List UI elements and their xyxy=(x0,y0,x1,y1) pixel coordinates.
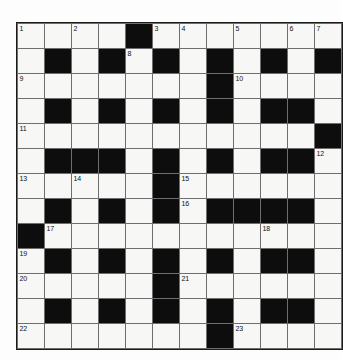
crossword-cell[interactable] xyxy=(288,124,314,148)
crossword-cell[interactable] xyxy=(126,99,152,123)
crossword-cell[interactable] xyxy=(234,224,260,248)
crossword-cell[interactable] xyxy=(72,274,98,298)
crossword-cell[interactable] xyxy=(72,74,98,98)
crossword-cell[interactable] xyxy=(126,249,152,273)
crossword-cell[interactable] xyxy=(288,74,314,98)
crossword-cell[interactable] xyxy=(288,224,314,248)
crossword-cell[interactable]: 8 xyxy=(126,49,152,73)
crossword-cell[interactable] xyxy=(18,99,44,123)
crossword-cell[interactable] xyxy=(18,49,44,73)
crossword-cell[interactable] xyxy=(180,124,206,148)
crossword-cell[interactable] xyxy=(234,249,260,273)
crossword-cell[interactable]: 5 xyxy=(234,24,260,48)
crossword-cell[interactable]: 2 xyxy=(72,24,98,48)
crossword-cell[interactable] xyxy=(126,124,152,148)
crossword-cell[interactable] xyxy=(72,224,98,248)
crossword-cell[interactable]: 15 xyxy=(180,174,206,198)
crossword-cell[interactable] xyxy=(45,124,71,148)
crossword-cell[interactable] xyxy=(261,174,287,198)
crossword-cell[interactable] xyxy=(153,324,179,348)
crossword-cell[interactable]: 9 xyxy=(18,74,44,98)
crossword-cell[interactable] xyxy=(18,149,44,173)
crossword-cell[interactable] xyxy=(126,299,152,323)
crossword-cell[interactable] xyxy=(234,99,260,123)
crossword-cell[interactable]: 18 xyxy=(261,224,287,248)
crossword-cell[interactable] xyxy=(180,149,206,173)
crossword-cell[interactable] xyxy=(126,174,152,198)
crossword-cell[interactable]: 4 xyxy=(180,24,206,48)
crossword-cell[interactable] xyxy=(45,274,71,298)
crossword-cell[interactable] xyxy=(99,274,125,298)
crossword-cell[interactable]: 19 xyxy=(18,249,44,273)
crossword-cell[interactable]: 14 xyxy=(72,174,98,198)
crossword-cell[interactable] xyxy=(126,274,152,298)
crossword-cell[interactable] xyxy=(207,274,233,298)
crossword-cell[interactable]: 23 xyxy=(234,324,260,348)
crossword-cell[interactable]: 16 xyxy=(180,199,206,223)
crossword-cell[interactable]: 12 xyxy=(315,149,341,173)
crossword-cell[interactable] xyxy=(126,149,152,173)
crossword-cell[interactable] xyxy=(234,299,260,323)
crossword-cell[interactable] xyxy=(126,199,152,223)
crossword-cell[interactable] xyxy=(207,124,233,148)
crossword-cell[interactable] xyxy=(99,74,125,98)
crossword-cell[interactable] xyxy=(72,49,98,73)
crossword-cell[interactable] xyxy=(72,199,98,223)
crossword-cell[interactable]: 1 xyxy=(18,24,44,48)
crossword-cell[interactable] xyxy=(315,274,341,298)
crossword-cell[interactable] xyxy=(72,249,98,273)
crossword-cell[interactable] xyxy=(315,224,341,248)
crossword-cell[interactable] xyxy=(72,299,98,323)
crossword-cell[interactable] xyxy=(288,174,314,198)
crossword-cell[interactable] xyxy=(180,49,206,73)
crossword-cell[interactable] xyxy=(207,24,233,48)
crossword-cell[interactable] xyxy=(153,124,179,148)
crossword-cell[interactable]: 10 xyxy=(234,74,260,98)
crossword-cell[interactable] xyxy=(315,324,341,348)
crossword-cell[interactable] xyxy=(180,324,206,348)
crossword-cell[interactable] xyxy=(315,249,341,273)
crossword-cell[interactable] xyxy=(288,274,314,298)
crossword-cell[interactable]: 3 xyxy=(153,24,179,48)
crossword-cell[interactable] xyxy=(261,24,287,48)
crossword-cell[interactable] xyxy=(180,299,206,323)
crossword-grid[interactable]: 1234567891011121314151617181920212223 xyxy=(16,22,343,350)
crossword-cell[interactable] xyxy=(180,74,206,98)
crossword-cell[interactable] xyxy=(99,324,125,348)
crossword-cell[interactable] xyxy=(180,99,206,123)
crossword-cell[interactable] xyxy=(234,124,260,148)
crossword-cell[interactable] xyxy=(315,174,341,198)
crossword-cell[interactable] xyxy=(45,324,71,348)
crossword-cell[interactable] xyxy=(234,274,260,298)
crossword-cell[interactable] xyxy=(45,174,71,198)
crossword-cell[interactable] xyxy=(315,99,341,123)
crossword-cell[interactable] xyxy=(315,199,341,223)
crossword-cell[interactable] xyxy=(99,174,125,198)
crossword-cell[interactable] xyxy=(153,224,179,248)
crossword-cell[interactable] xyxy=(99,24,125,48)
crossword-cell[interactable] xyxy=(18,299,44,323)
crossword-cell[interactable] xyxy=(180,224,206,248)
crossword-cell[interactable]: 20 xyxy=(18,274,44,298)
crossword-cell[interactable] xyxy=(126,324,152,348)
crossword-cell[interactable]: 17 xyxy=(45,224,71,248)
crossword-cell[interactable] xyxy=(261,274,287,298)
crossword-cell[interactable] xyxy=(18,199,44,223)
crossword-cell[interactable] xyxy=(72,324,98,348)
crossword-cell[interactable] xyxy=(99,224,125,248)
crossword-cell[interactable] xyxy=(72,124,98,148)
crossword-cell[interactable] xyxy=(288,324,314,348)
crossword-cell[interactable] xyxy=(99,124,125,148)
crossword-cell[interactable] xyxy=(45,74,71,98)
crossword-cell[interactable] xyxy=(180,249,206,273)
crossword-cell[interactable]: 7 xyxy=(315,24,341,48)
crossword-cell[interactable] xyxy=(261,74,287,98)
crossword-cell[interactable] xyxy=(315,74,341,98)
crossword-cell[interactable] xyxy=(45,24,71,48)
crossword-cell[interactable] xyxy=(315,299,341,323)
crossword-cell[interactable]: 6 xyxy=(288,24,314,48)
crossword-cell[interactable] xyxy=(72,99,98,123)
crossword-cell[interactable] xyxy=(207,174,233,198)
crossword-cell[interactable] xyxy=(126,74,152,98)
crossword-cell[interactable] xyxy=(234,174,260,198)
